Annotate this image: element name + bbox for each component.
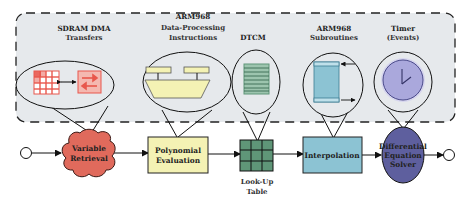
- lookup-table-node: Look-Up Table: [240, 140, 273, 196]
- end-terminal: [444, 150, 455, 161]
- svg-text:Solver: Solver: [390, 160, 416, 169]
- diagram-canvas: SDRAM DMA Transfers ARM968 Data-Processi…: [0, 0, 471, 206]
- polynomial-evaluation-node: Polynomial Evaluation: [148, 137, 208, 173]
- dma-transfer-icon: [78, 71, 101, 93]
- memory-stack-icon: [244, 64, 269, 94]
- sdram-dma-bubble: [16, 61, 114, 109]
- timer-title: Timer (Events): [387, 24, 420, 42]
- svg-text:Look-Up: Look-Up: [241, 177, 274, 186]
- timer-bubble: [374, 52, 432, 112]
- svg-text:Equation: Equation: [384, 151, 422, 160]
- svg-text:SDRAM DMA: SDRAM DMA: [57, 24, 111, 33]
- memory-grid-icon: [34, 71, 59, 94]
- start-terminal: [21, 148, 32, 159]
- svg-text:Timer: Timer: [391, 24, 415, 33]
- arm-data-processing-bubble: [143, 52, 231, 112]
- svg-text:Retrieval: Retrieval: [70, 154, 108, 163]
- dtcm-bubble: [232, 50, 280, 114]
- svg-text:Variable: Variable: [71, 144, 106, 153]
- arm-subroutines-bubble: [303, 53, 363, 117]
- svg-text:Interpolation: Interpolation: [304, 151, 360, 160]
- svg-text:ARM968: ARM968: [316, 24, 352, 33]
- svg-text:ARM968: ARM968: [175, 12, 211, 21]
- svg-text:Evaluation: Evaluation: [156, 156, 201, 165]
- clock-icon: [381, 58, 425, 102]
- svg-text:(Events): (Events): [387, 33, 420, 42]
- variable-retrieval-node: Variable Retrieval: [62, 129, 115, 177]
- interpolation-node: Interpolation: [303, 137, 362, 173]
- svg-text:Data-Processing: Data-Processing: [161, 23, 225, 32]
- differential-equation-solver-node: Differential Equation Solver: [379, 127, 427, 183]
- svg-text:Differential: Differential: [379, 142, 427, 151]
- svg-text:Table: Table: [246, 187, 268, 196]
- svg-text:Polynomial: Polynomial: [155, 146, 201, 155]
- svg-text:Instructions: Instructions: [169, 33, 217, 42]
- svg-text:Subroutines: Subroutines: [310, 33, 358, 42]
- dtcm-title: DTCM: [240, 33, 265, 42]
- arm-sub-title: ARM968 Subroutines: [310, 24, 358, 42]
- svg-text:DTCM: DTCM: [240, 33, 265, 42]
- svg-text:Transfers: Transfers: [65, 33, 102, 42]
